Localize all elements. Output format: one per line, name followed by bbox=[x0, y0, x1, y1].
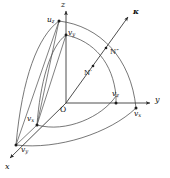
point-label-uz: uz bbox=[47, 16, 55, 24]
dot-vy-top bbox=[65, 34, 68, 37]
vector-label-kappa: κ bbox=[133, 7, 139, 15]
dot-vz-axis bbox=[115, 102, 118, 105]
origin-label: O bbox=[60, 106, 66, 114]
point-label-vy-left: vy bbox=[21, 146, 28, 154]
point-label-vx-left: vx bbox=[27, 115, 34, 123]
dot-vy-left bbox=[15, 144, 18, 147]
point-label-vx-left-sub: x bbox=[31, 117, 34, 123]
point-label-vy-left-sub: y bbox=[25, 148, 28, 154]
point-label-vx-axis-sub: x bbox=[138, 112, 141, 118]
axis-label-x: x bbox=[5, 163, 10, 171]
point-label-vy-top: vy bbox=[68, 29, 75, 37]
outer-arc-xy bbox=[16, 108, 136, 146]
point-label-vz-axis-sub: z bbox=[116, 92, 119, 98]
dot-n-double-prime bbox=[105, 47, 108, 50]
inner-arc-xy bbox=[37, 96, 116, 127]
edge-uz-to-vx-left bbox=[37, 21, 59, 125]
point-label-n-prime: N′ bbox=[84, 70, 92, 77]
point-label-vz-axis: vz bbox=[112, 90, 119, 98]
dot-uz bbox=[58, 20, 61, 23]
point-label-uz-sub: z bbox=[52, 18, 55, 24]
dot-n-prime bbox=[92, 65, 95, 68]
axis-label-z: z bbox=[61, 1, 65, 9]
dot-vx-left bbox=[36, 124, 39, 127]
axis-label-y: y bbox=[155, 96, 160, 104]
figure-canvas: z y x κ O uz vy vz vx vx vy N′ N″ bbox=[0, 0, 170, 178]
point-label-vx-axis: vx bbox=[134, 110, 141, 118]
point-label-vy-top-sub: y bbox=[72, 31, 75, 37]
point-label-n-double-prime: N″ bbox=[110, 49, 119, 56]
